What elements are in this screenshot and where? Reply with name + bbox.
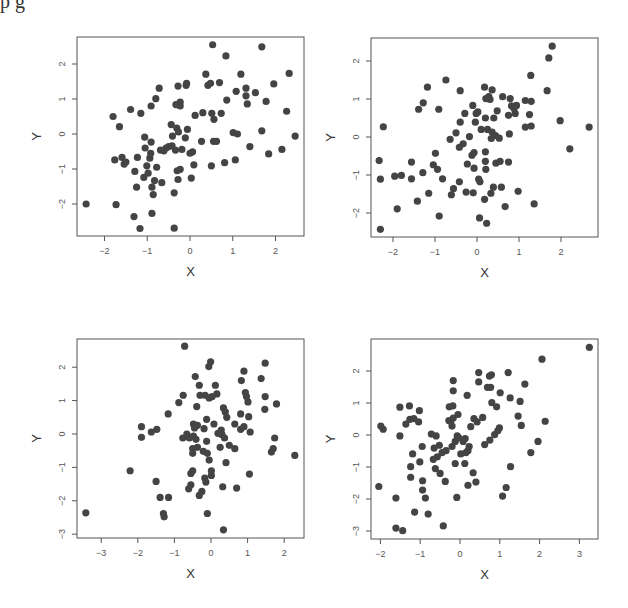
data-point — [534, 438, 541, 445]
data-point — [409, 450, 416, 457]
data-point — [436, 442, 443, 449]
data-point — [452, 460, 459, 467]
y-tick-label: 0 — [351, 432, 361, 437]
y-tick-label: −2 — [351, 494, 361, 504]
data-point — [453, 494, 460, 501]
data-point — [493, 403, 500, 410]
data-point — [415, 418, 422, 425]
data-point — [527, 449, 534, 456]
data-point — [450, 387, 457, 394]
data-point — [437, 470, 444, 477]
y-tick-label: 2 — [351, 368, 361, 373]
data-point — [396, 404, 403, 411]
data-point — [488, 371, 495, 378]
data-point — [454, 411, 461, 418]
data-point — [448, 422, 455, 429]
x-axis-label: X — [480, 567, 489, 582]
x-tick-label: 3 — [577, 549, 582, 559]
data-point — [416, 458, 423, 465]
x-tick-label: 2 — [537, 549, 542, 559]
data-point — [464, 392, 471, 399]
data-point — [497, 389, 504, 396]
data-point — [499, 493, 506, 500]
data-point — [440, 522, 447, 529]
data-point — [507, 394, 514, 401]
data-point — [464, 482, 471, 489]
data-point — [419, 443, 426, 450]
scatter-plot: −2−10123−3−2−1012XY — [0, 0, 628, 608]
data-point — [470, 469, 477, 476]
data-point — [449, 402, 456, 409]
data-point — [399, 527, 406, 534]
data-point — [419, 477, 426, 484]
data-point — [425, 510, 432, 517]
data-point — [407, 474, 414, 481]
x-tick-label: −2 — [375, 549, 385, 559]
data-point — [472, 478, 479, 485]
data-point — [507, 463, 514, 470]
data-point — [505, 369, 512, 376]
data-point — [496, 424, 503, 431]
data-point — [466, 443, 473, 450]
data-point — [474, 418, 481, 425]
data-point — [462, 435, 469, 442]
y-tick-label: −1 — [351, 462, 361, 472]
data-point — [515, 413, 522, 420]
data-point — [538, 356, 545, 363]
data-point — [487, 384, 494, 391]
data-point — [467, 423, 474, 430]
x-tick-label: 1 — [497, 549, 502, 559]
data-point — [416, 407, 423, 414]
data-point — [542, 418, 549, 425]
y-tick-label: −3 — [351, 526, 361, 536]
data-point — [475, 378, 482, 385]
data-point — [521, 381, 528, 388]
data-point — [406, 402, 413, 409]
data-point — [407, 463, 414, 470]
data-point — [392, 525, 399, 532]
y-axis-label: Y — [323, 434, 338, 443]
data-point — [479, 414, 486, 421]
data-point — [442, 447, 449, 454]
data-point — [422, 494, 429, 501]
data-point — [475, 369, 482, 376]
data-point — [486, 437, 493, 444]
data-point — [396, 432, 403, 439]
x-tick-label: 0 — [457, 549, 462, 559]
data-point — [380, 426, 387, 433]
data-point — [518, 422, 525, 429]
data-point — [442, 478, 449, 485]
data-point — [516, 398, 523, 405]
data-point — [392, 494, 399, 501]
y-tick-label: 1 — [351, 400, 361, 405]
data-point — [411, 509, 418, 516]
plot-frame — [371, 339, 598, 539]
data-point — [586, 344, 593, 351]
data-point — [433, 432, 440, 439]
data-point — [461, 460, 468, 467]
data-point — [503, 484, 510, 491]
data-point — [375, 483, 382, 490]
x-tick-label: −1 — [415, 549, 425, 559]
scatter-panel-bottom-right: −2−10123−3−2−1012XY — [0, 0, 628, 608]
data-point — [450, 377, 457, 384]
data-point — [419, 486, 426, 493]
